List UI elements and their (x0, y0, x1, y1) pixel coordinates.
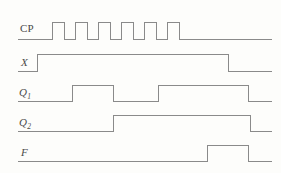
waveform-x (18, 54, 272, 71)
signal-label-q1: Q1 (19, 86, 31, 101)
signal-label-text: Q (19, 86, 27, 98)
signal-label-text: F (21, 146, 28, 158)
signal-label-text: CP (20, 22, 34, 34)
timing-diagram-figure: CPXQ1Q2F (0, 0, 281, 173)
signal-label-cp: CP (20, 22, 34, 34)
waveform-f (18, 145, 272, 161)
signal-label-text: Q (19, 116, 27, 128)
waveform-canvas (0, 0, 281, 173)
signal-label-x: X (21, 56, 28, 68)
signal-label-f: F (21, 146, 28, 158)
waveform-q2 (18, 115, 272, 131)
waveform-q1 (18, 85, 272, 101)
signal-label-text: X (21, 56, 28, 68)
signal-label-subscript: 1 (27, 92, 31, 101)
waveform-cp (18, 22, 272, 39)
signal-label-subscript: 2 (27, 122, 31, 131)
signal-label-q2: Q2 (19, 116, 31, 131)
